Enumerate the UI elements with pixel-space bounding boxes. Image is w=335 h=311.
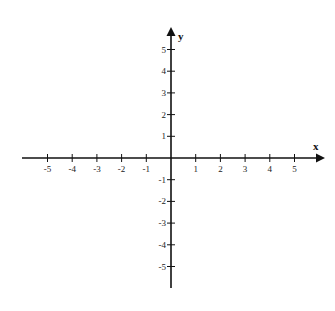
x-axis-arrow-icon	[316, 154, 325, 163]
y-axis-arrow-icon	[167, 27, 176, 36]
x-tick-label: 4	[268, 164, 273, 174]
x-tick-label: -5	[44, 164, 52, 174]
x-tick-label: -3	[93, 164, 101, 174]
y-tick-label: -1	[159, 175, 167, 185]
y-tick-label: -4	[159, 240, 167, 250]
y-tick-label: -5	[159, 262, 167, 272]
coordinate-plane: x y -5-4-3-2-112345 54321-1-2-3-4-5	[0, 0, 335, 311]
y-axis-label: y	[178, 30, 184, 42]
x-tick-label: -1	[143, 164, 151, 174]
x-tick-label: 3	[243, 164, 248, 174]
y-tick-label: -3	[159, 218, 167, 228]
x-tick-label: -4	[68, 164, 76, 174]
y-tick-label: 3	[162, 88, 167, 98]
x-tick-label: 5	[292, 164, 297, 174]
x-axis-label: x	[313, 140, 319, 152]
y-tick-label: 4	[162, 66, 167, 76]
x-tick-label: 2	[218, 164, 223, 174]
y-tick-label: 5	[162, 45, 167, 55]
x-tick-label: -2	[118, 164, 126, 174]
y-tick-label: 2	[162, 110, 167, 120]
y-tick-label: 1	[162, 131, 167, 141]
x-tick-label: 1	[193, 164, 198, 174]
y-tick-label: -2	[159, 196, 167, 206]
